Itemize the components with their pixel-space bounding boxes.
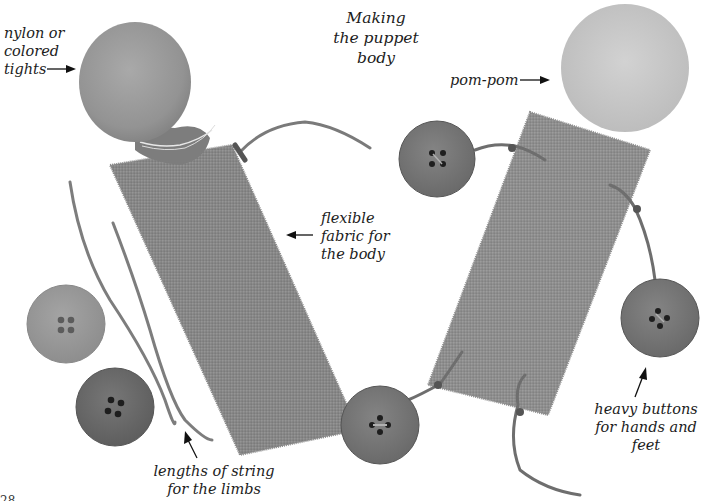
label-line: the body bbox=[321, 245, 390, 263]
label-fabric: flexible fabric for the body bbox=[321, 209, 390, 263]
label-line: nylon or bbox=[4, 24, 65, 42]
label-strings: lengths of string for the limbs bbox=[148, 462, 280, 498]
label-line: fabric for bbox=[321, 227, 390, 245]
arrow-pompom bbox=[520, 76, 550, 84]
label-line: for hands and bbox=[590, 418, 701, 436]
title-line: Making bbox=[320, 8, 432, 28]
hand-button-right bbox=[621, 279, 699, 357]
hand-button-left bbox=[399, 121, 475, 197]
title-line: body bbox=[320, 48, 432, 68]
title-line: the puppet bbox=[320, 28, 432, 48]
arrow-buttons bbox=[635, 367, 647, 397]
title-making-puppet-body: Making the puppet body bbox=[320, 8, 432, 68]
tights-ball-head bbox=[79, 22, 191, 142]
label-line: tights bbox=[4, 60, 65, 78]
label-pompom: pom-pom bbox=[450, 71, 518, 89]
puppet-illustration: Making the puppet body nylon or colored … bbox=[0, 0, 701, 501]
dark-button bbox=[76, 368, 154, 446]
light-button bbox=[27, 285, 105, 363]
label-line: lengths of string bbox=[148, 462, 280, 480]
page-number-fragment: 28 bbox=[0, 492, 15, 501]
label-line: flexible bbox=[321, 209, 390, 227]
label-line: heavy buttons bbox=[590, 400, 701, 418]
label-line: feet bbox=[590, 436, 701, 454]
label-line: colored bbox=[4, 42, 65, 60]
label-tights: nylon or colored tights bbox=[4, 24, 65, 78]
pompom-head bbox=[561, 4, 689, 132]
label-line: for the limbs bbox=[148, 480, 280, 498]
arrow-strings bbox=[184, 431, 197, 458]
foot-button bbox=[341, 386, 419, 464]
label-line: pom-pom bbox=[450, 71, 518, 89]
neck-string bbox=[240, 122, 370, 152]
label-buttons: heavy buttons for hands and feet bbox=[590, 400, 701, 454]
arrow-fabric bbox=[286, 231, 313, 239]
